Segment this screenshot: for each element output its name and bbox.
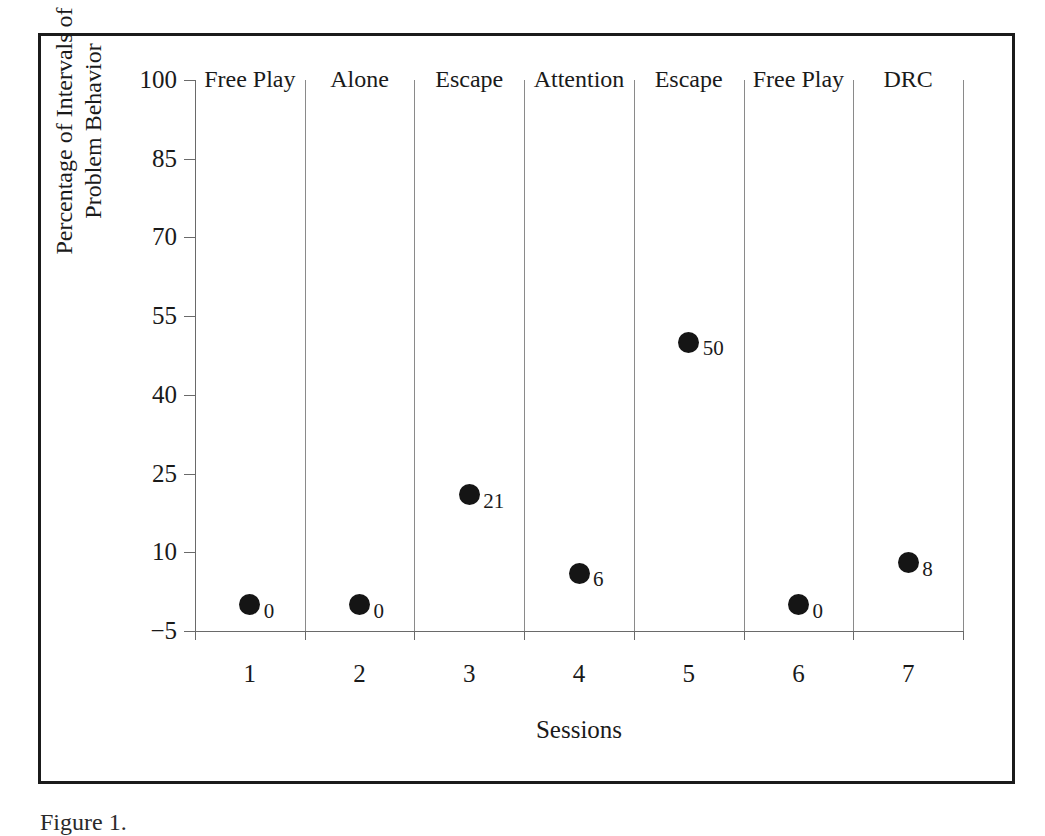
data-point-label: 50 [703,338,724,359]
x-tick [305,631,306,640]
x-tick [853,631,854,640]
x-tick-label-session-2: 2 [330,660,390,688]
phase-divider [634,80,635,631]
x-axis-title: Sessions [195,716,963,743]
data-point-label: 6 [593,569,604,590]
y-tick-label: 85 [105,146,177,171]
y-tick-55 [184,316,195,317]
x-tick-label-session-5: 5 [659,660,719,688]
y-tick-100 [184,80,195,81]
x-tick [195,631,196,640]
x-tick-label-session-4: 4 [549,660,609,688]
x-tick [524,631,525,640]
phase-label-escape: Escape [414,66,524,92]
y-axis-title: Percentage of Intervals of Problem Behav… [50,0,110,296]
data-point [898,552,919,573]
x-tick-label-session-7: 7 [878,660,938,688]
x-tick-label-session-3: 3 [439,660,499,688]
y-tick-label: 25 [105,461,177,486]
phase-divider [524,80,525,631]
y-tick-85 [184,159,195,160]
y-tick-label: 100 [105,67,177,92]
figure-border [38,33,1015,784]
y-axis-title-line2: Problem Behavior [79,0,108,296]
figure-caption: Figure 1. [40,808,1000,836]
data-point-label: 8 [922,559,933,580]
x-tick [634,631,635,640]
data-point [459,484,480,505]
y-tick--5 [184,631,195,632]
data-point [569,563,590,584]
y-axis-title-line1: Percentage of Intervals of [50,0,79,296]
x-tick [414,631,415,640]
phase-divider [744,80,745,631]
phase-divider [305,80,306,631]
x-tick-label-session-1: 1 [220,660,280,688]
data-point [678,332,699,353]
data-point-label: 0 [374,601,385,622]
y-tick-label: 10 [105,539,177,564]
phase-label-alone: Alone [305,66,415,92]
x-tick-label-session-6: 6 [768,660,828,688]
y-axis-line [195,80,196,631]
y-tick-label: 40 [105,382,177,407]
phase-label-drc: DRC [853,66,963,92]
phase-label-free-play: Free Play [744,66,854,92]
y-tick-70 [184,237,195,238]
x-tick [963,631,964,640]
phase-label-free-play: Free Play [195,66,305,92]
phase-divider [414,80,415,631]
y-tick-label: 55 [105,303,177,328]
y-tick-label: −5 [105,618,177,643]
x-axis-line [195,631,963,632]
phase-divider [963,80,964,631]
data-point-label: 0 [264,601,275,622]
y-tick-10 [184,552,195,553]
y-tick-label: 70 [105,224,177,249]
x-tick [744,631,745,640]
phase-label-escape: Escape [634,66,744,92]
data-point-label: 21 [483,491,504,512]
phase-label-attention: Attention [524,66,634,92]
phase-divider [853,80,854,631]
data-point-label: 0 [812,601,823,622]
y-tick-25 [184,474,195,475]
y-tick-40 [184,395,195,396]
